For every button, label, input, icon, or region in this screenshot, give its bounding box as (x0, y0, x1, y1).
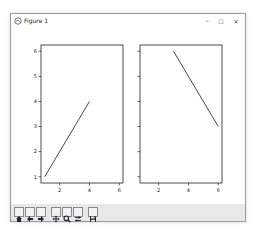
app-icon (14, 17, 22, 25)
close-button[interactable]: ✕ (230, 16, 242, 27)
y-tick-label: 2 (34, 148, 37, 154)
sliders-icon (74, 215, 82, 223)
x-tick-label: 6 (217, 187, 220, 193)
zoom-button[interactable] (62, 207, 72, 217)
window-title: Figure 1 (24, 17, 48, 24)
arrow-right-icon (37, 215, 45, 223)
minimize-button[interactable]: – (201, 16, 213, 27)
floppy-disk-icon (89, 215, 97, 223)
move-icon (52, 215, 60, 223)
configure-subplots-button[interactable] (73, 207, 83, 217)
save-button[interactable] (88, 207, 98, 217)
home-icon (15, 215, 23, 223)
y-tick-label: 1 (34, 174, 37, 180)
axes-frame-2 (140, 45, 222, 183)
arrow-left-icon (26, 215, 34, 223)
figure-canvas[interactable]: 246123456246 (11, 30, 245, 204)
home-button[interactable] (14, 207, 24, 217)
magnifier-icon (63, 215, 71, 223)
figure-window: Figure 1 – ☐ ✕ 246123456246 (10, 13, 246, 222)
forward-button[interactable] (36, 207, 46, 217)
navigation-toolbar (11, 204, 245, 221)
y-tick-label: 4 (34, 98, 37, 104)
pan-button[interactable] (51, 207, 61, 217)
x-tick-label: 2 (157, 187, 160, 193)
figure-svg: 246123456246 (11, 30, 245, 204)
y-tick-label: 5 (34, 73, 37, 79)
x-tick-label: 4 (187, 187, 190, 193)
x-tick-label: 6 (118, 187, 121, 193)
y-tick-label: 6 (34, 48, 37, 54)
title-bar[interactable]: Figure 1 – ☐ ✕ (11, 14, 245, 30)
maximize-button[interactable]: ☐ (215, 16, 227, 27)
x-tick-label: 4 (88, 187, 91, 193)
y-tick-label: 3 (34, 123, 37, 129)
back-button[interactable] (25, 207, 35, 217)
x-tick-label: 2 (58, 187, 61, 193)
